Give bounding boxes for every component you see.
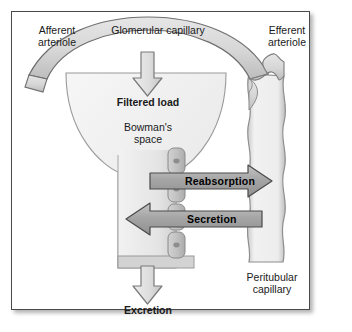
label-filtered-load: Filtered load [103, 97, 193, 109]
figure-canvas: Afferent arteriole Glomerular capillary … [0, 0, 352, 332]
label-glomerular-capillary: Glomerular capillary [99, 25, 217, 37]
label-afferent-arteriole: Afferent arteriole [20, 25, 94, 49]
label-bowmans-space: Bowman's space [110, 122, 186, 146]
excretion-arrow [133, 266, 162, 304]
label-reabsorption: Reabsorption [185, 175, 255, 187]
label-secretion: Secretion [187, 213, 237, 225]
epithelial-cell [168, 232, 185, 258]
epithelial-cell [168, 148, 185, 174]
label-excretion: Excretion [107, 305, 189, 317]
label-peritubular-capillary: Peritubular capillary [232, 272, 312, 296]
label-efferent-arteriole: Efferent arteriole [254, 25, 320, 49]
